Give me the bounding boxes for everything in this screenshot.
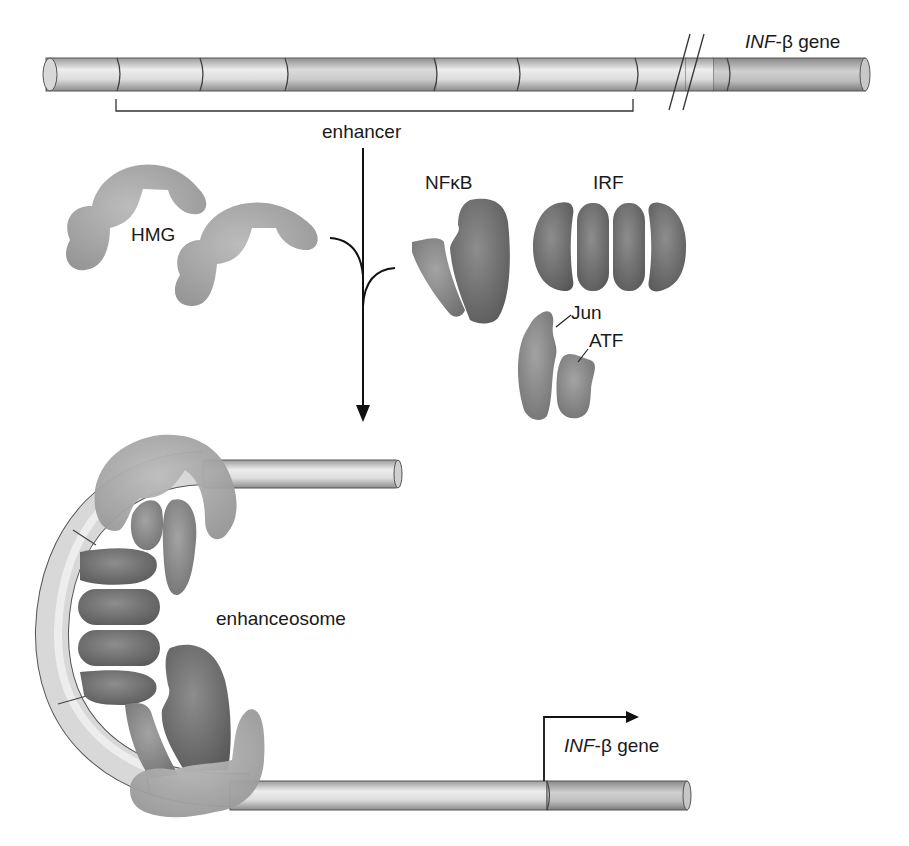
enhanceosome-label: enhanceosome xyxy=(216,609,346,628)
assembly-arrow-icon xyxy=(330,148,395,422)
irf-protein xyxy=(533,202,686,291)
enhanceosome-irf xyxy=(78,548,160,705)
atf-label: ATF xyxy=(589,331,623,350)
bottom-gene-label-rest: -β gene xyxy=(595,735,660,756)
enhancer-label: enhancer xyxy=(322,122,401,141)
top-gene-label-rest: -β gene xyxy=(776,31,841,52)
hmg-label: HMG xyxy=(131,225,175,244)
nfkb-label: NFκB xyxy=(425,173,473,192)
jun-label: Jun xyxy=(571,303,602,322)
top-gene-label-italic: INF xyxy=(745,31,776,52)
jun-leader-line xyxy=(556,315,571,327)
bottom-gene-label-italic: INF xyxy=(564,735,595,756)
enhancer-bracket xyxy=(116,99,633,111)
bottom-gene-label: INF-β gene xyxy=(564,736,659,755)
enhanceosome-diagram xyxy=(0,0,909,846)
hmg-protein-2 xyxy=(175,203,318,306)
nfkb-protein xyxy=(412,199,510,324)
irf-label: IRF xyxy=(593,173,624,192)
jun-protein xyxy=(518,311,557,420)
atf-protein xyxy=(557,354,595,418)
top-gene-label: INF-β gene xyxy=(745,32,840,51)
